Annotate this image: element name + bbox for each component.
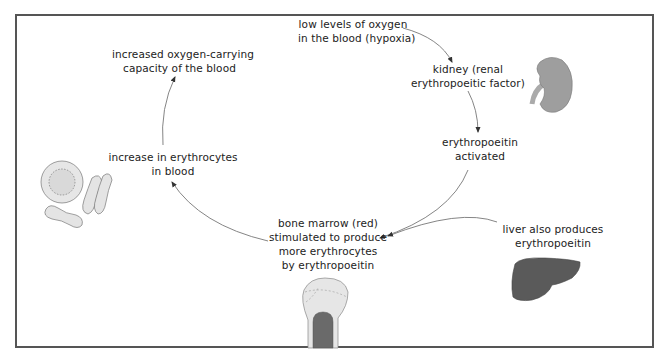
arrow-erythrocytes-to-capacity — [163, 77, 176, 145]
node-hypoxia: low levels of oxygen in the blood (hypox… — [298, 17, 408, 45]
diagram-canvas — [0, 0, 666, 358]
arrow-liver-to-bone-marrow — [388, 217, 497, 236]
node-liver: liver also produces erythropoeitin — [498, 222, 608, 250]
erythrocytes-illustration — [41, 161, 112, 228]
arrow-kidney-to-epo — [468, 91, 478, 132]
node-kidney: kidney (renal erythropoeitic factor) — [408, 62, 528, 90]
node-bone-marrow: bone marrow (red) stimulated to produce … — [268, 216, 388, 272]
liver-illustration — [512, 258, 580, 301]
node-increase-erythrocytes: increase in erythrocytes in blood — [108, 150, 238, 178]
node-oxygen-capacity: increased oxygen-carrying capacity of th… — [112, 47, 247, 75]
kidney-illustration — [532, 57, 572, 112]
arrow-bone-marrow-to-erythrocytes — [172, 182, 268, 241]
bone-illustration — [303, 278, 348, 348]
arrow-epo-to-bone-marrow — [380, 170, 468, 238]
node-epo-activated: erythropoeitin activated — [430, 135, 530, 163]
